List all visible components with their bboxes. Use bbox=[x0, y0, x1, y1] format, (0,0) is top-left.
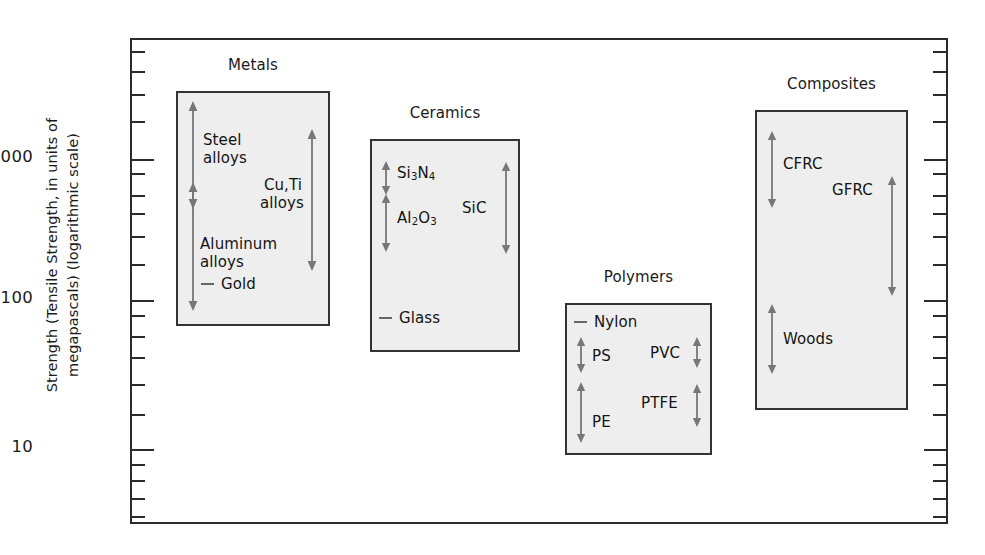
chart-figure: Strength (Tensile Strength, in units of … bbox=[0, 0, 985, 555]
axis-tick-left-minor bbox=[132, 236, 145, 238]
item-label-al2o3-o: O bbox=[418, 209, 430, 227]
axis-tick-left-major-10 bbox=[132, 449, 154, 451]
axis-tick-right-major-100 bbox=[924, 300, 946, 302]
item-label-cuti-line-1: Cu,Ti bbox=[260, 176, 302, 194]
axis-tick-left-minor bbox=[132, 414, 145, 416]
item-label-si3n4-4: 4 bbox=[429, 171, 436, 182]
point-marker-glass bbox=[379, 317, 392, 319]
axis-tick-left-minor bbox=[132, 464, 145, 466]
item-label-ptfe: PTFE bbox=[641, 394, 678, 412]
item-label-cuti-alloys: Cu,Ti alloys bbox=[260, 176, 302, 213]
axis-tick-right-minor bbox=[933, 71, 946, 73]
range-arrow-ptfe bbox=[690, 384, 704, 427]
item-label-aluminum-alloys: Aluminum alloys bbox=[200, 235, 277, 272]
range-arrow-pvc bbox=[690, 337, 704, 368]
axis-tick-right-minor bbox=[933, 94, 946, 96]
axis-tick-right-minor bbox=[933, 464, 946, 466]
point-marker-gold bbox=[201, 283, 214, 285]
axis-tick-right-minor bbox=[933, 213, 946, 215]
axis-tick-right-minor bbox=[933, 315, 946, 317]
axis-tick-right-minor bbox=[933, 516, 946, 518]
group-title-ceramics: Ceramics bbox=[370, 104, 520, 122]
axis-tick-right-major-10 bbox=[924, 449, 946, 451]
group-title-polymers: Polymers bbox=[565, 268, 712, 286]
axis-tick-right-minor bbox=[933, 384, 946, 386]
axis-tick-left-minor bbox=[132, 264, 145, 266]
y-axis-title-line-2: megapascals) (logarithmic scale) bbox=[63, 133, 84, 377]
range-arrow-al2o3 bbox=[379, 194, 393, 252]
axis-tick-left-major-1000 bbox=[132, 159, 154, 161]
item-label-glass: Glass bbox=[399, 309, 440, 327]
axis-tick-right-minor bbox=[933, 264, 946, 266]
item-label-nylon: Nylon bbox=[594, 313, 637, 331]
item-label-si3n4-si: Si bbox=[397, 164, 411, 182]
range-arrow-cuti-alloys bbox=[305, 129, 319, 271]
axis-tick-right-minor bbox=[933, 357, 946, 359]
item-label-sic: SiC bbox=[462, 199, 486, 217]
axis-tick-left-minor bbox=[132, 195, 145, 197]
axis-tick-right-minor bbox=[933, 121, 946, 123]
item-label-cuti-line-2: alloys bbox=[260, 194, 302, 212]
item-label-aluminum-line-1: Aluminum bbox=[200, 235, 277, 253]
range-arrow-sic bbox=[499, 162, 513, 254]
axis-tick-left-major-100 bbox=[132, 300, 154, 302]
y-tick-label-100: 100 bbox=[1, 288, 33, 307]
range-arrow-pe bbox=[574, 382, 588, 443]
item-label-cfrc: CFRC bbox=[783, 155, 823, 173]
range-arrow-si3n4 bbox=[379, 161, 393, 195]
axis-tick-right-minor bbox=[933, 336, 946, 338]
item-label-steel-line-2: alloys bbox=[203, 149, 247, 167]
point-marker-nylon bbox=[574, 321, 587, 323]
axis-tick-right-minor bbox=[933, 480, 946, 482]
axis-tick-left-minor bbox=[132, 173, 145, 175]
range-arrow-cfrc bbox=[765, 131, 779, 208]
item-label-gold: Gold bbox=[221, 275, 256, 293]
item-label-si3n4: Si3N4 bbox=[397, 164, 435, 184]
axis-tick-left-minor bbox=[132, 498, 145, 500]
item-label-aluminum-line-2: alloys bbox=[200, 253, 277, 271]
y-axis-title-line-1: Strength (Tensile Strength, in units of bbox=[42, 118, 63, 393]
axis-tick-right-minor bbox=[933, 51, 946, 53]
axis-tick-left-minor bbox=[132, 121, 145, 123]
item-label-si3n4-n: N bbox=[417, 164, 428, 182]
item-label-al2o3-al: Al bbox=[397, 209, 412, 227]
axis-tick-left-minor bbox=[132, 336, 145, 338]
axis-tick-right-minor bbox=[933, 195, 946, 197]
group-title-metals: Metals bbox=[176, 56, 330, 74]
axis-tick-left-minor bbox=[132, 315, 145, 317]
item-label-pe: PE bbox=[592, 413, 611, 431]
axis-tick-left-minor bbox=[132, 94, 145, 96]
item-label-ps: PS bbox=[592, 347, 611, 365]
item-label-pvc: PVC bbox=[650, 344, 680, 362]
axis-tick-left-minor bbox=[132, 51, 145, 53]
axis-tick-right-minor bbox=[933, 414, 946, 416]
axis-tick-left-minor bbox=[132, 357, 145, 359]
range-arrow-aluminum-alloys bbox=[186, 182, 200, 311]
y-tick-label-10: 10 bbox=[11, 437, 33, 456]
range-arrow-gfrc bbox=[885, 176, 899, 296]
group-title-composites: Composites bbox=[755, 75, 908, 93]
y-tick-label-1000: 1000 bbox=[0, 147, 33, 166]
axis-tick-right-major-1000 bbox=[924, 159, 946, 161]
axis-tick-left-minor bbox=[132, 480, 145, 482]
item-label-al2o3: Al2O3 bbox=[397, 209, 437, 229]
axis-tick-right-minor bbox=[933, 498, 946, 500]
item-label-gfrc: GFRC bbox=[832, 181, 873, 199]
axis-tick-left-minor bbox=[132, 71, 145, 73]
range-arrow-ps bbox=[574, 337, 588, 373]
axis-tick-left-minor bbox=[132, 516, 145, 518]
axis-tick-right-minor bbox=[933, 236, 946, 238]
axis-tick-left-minor bbox=[132, 384, 145, 386]
item-label-steel-line-1: Steel bbox=[203, 131, 247, 149]
range-arrow-woods bbox=[765, 304, 779, 374]
item-label-al2o3-3: 3 bbox=[430, 216, 437, 227]
axis-tick-left-minor bbox=[132, 213, 145, 215]
y-axis-title: Strength (Tensile Strength, in units of … bbox=[33, 25, 93, 485]
axis-tick-right-minor bbox=[933, 173, 946, 175]
item-label-woods: Woods bbox=[783, 330, 833, 348]
item-label-steel-alloys: Steel alloys bbox=[203, 131, 247, 168]
